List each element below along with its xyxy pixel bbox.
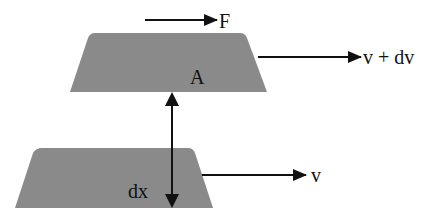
shear-diagram: F v + dv A dx v bbox=[0, 0, 429, 216]
area-label: A bbox=[190, 66, 205, 88]
separation-arrow-up-head bbox=[165, 92, 179, 106]
separation-label: dx bbox=[128, 180, 148, 202]
top-plate bbox=[70, 33, 267, 92]
top-velocity-label: v + dv bbox=[363, 46, 414, 68]
bottom-plate bbox=[15, 148, 213, 208]
bottom-velocity-label: v bbox=[311, 164, 321, 186]
force-label: F bbox=[219, 10, 230, 32]
